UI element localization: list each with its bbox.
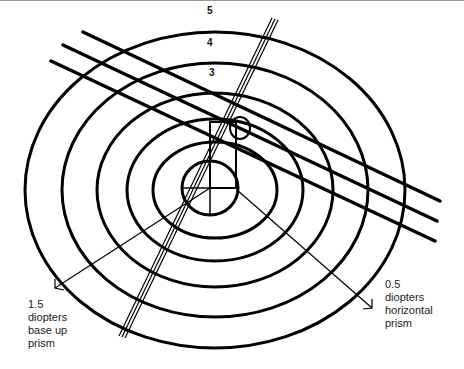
- ring-label-4: 4: [207, 37, 213, 48]
- vertical-prism-label: 1.5 diopters base up prism: [28, 298, 67, 350]
- horizontal-prism-label: 0.5 diopters horizontal prism: [385, 278, 433, 330]
- ring-label-5: 5: [207, 5, 213, 16]
- prism-box: [210, 122, 236, 188]
- ring-label-3: 3: [209, 67, 215, 78]
- ring-5: [25, 32, 405, 348]
- vertical-arrow-line: [55, 188, 210, 288]
